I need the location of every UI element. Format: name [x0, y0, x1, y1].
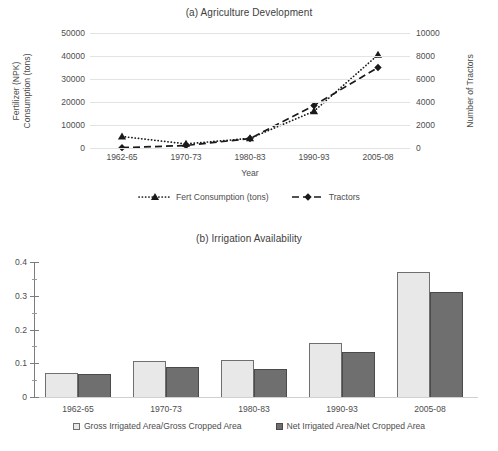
chart-a-legend-item: Fert Consumption (tons) [138, 192, 269, 202]
legend-line-sample [138, 192, 172, 202]
chart-a-x-tick: 1970-73 [170, 152, 201, 162]
chart-b-bar [133, 361, 166, 397]
chart-b-title: (b) Irrigation Availability [0, 233, 498, 244]
chart-b-y-tick-label: 0 [22, 392, 27, 402]
chart-a-x-axis-label: Year [90, 168, 410, 178]
chart-b-bar [254, 369, 287, 397]
chart-b-y-tick-mark [30, 397, 39, 398]
chart-b-y-tick-label: 0.3 [15, 291, 27, 301]
chart-b-bar [342, 352, 375, 397]
chart-b-bar-group [122, 262, 210, 397]
chart-a-gridline [90, 148, 410, 149]
chart-a-x-tick: 1962-65 [106, 152, 137, 162]
legend-swatch-net-icon [276, 423, 283, 430]
chart-a-y-tick-right: 2000 [416, 120, 435, 130]
chart-b-x-tick: 2005-08 [414, 404, 446, 414]
chart-b-x-tick: 1980-83 [238, 404, 270, 414]
chart-b-bar-group [210, 262, 298, 397]
dotted-line-triangle-icon [138, 192, 172, 202]
chart-a-y-tick-left: 40000 [61, 51, 85, 61]
chart-b-bar [309, 343, 342, 397]
chart-a-legend-label: Tractors [329, 192, 360, 202]
chart-b-y-tick-label: 0.2 [15, 325, 27, 335]
y-axis-label-left-line1: Fertilizer (NPK) [10, 61, 20, 120]
chart-a-x-tick: 1990-93 [298, 152, 329, 162]
chart-b-bar [430, 292, 463, 397]
chart-a-y-tick-left: 20000 [61, 97, 85, 107]
chart-b-bar-group [34, 262, 122, 397]
chart-agriculture-development: (a) Agriculture Development Fertilizer (… [0, 0, 498, 225]
chart-a-legend-item: Tractors [291, 192, 360, 202]
chart-b-bar-group [298, 262, 386, 397]
y-axis-label-left-line2: Consumption (tons) [21, 53, 31, 128]
chart-b-plot-area: 00.10.20.30.41962-651970-731980-831990-9… [34, 262, 474, 397]
chart-b-legend: Gross Irrigated Area/Gross Cropped AreaN… [0, 421, 498, 431]
chart-b-bar [397, 272, 430, 397]
chart-a-legend-label: Fert Consumption (tons) [176, 192, 269, 202]
chart-b-legend-item: Net Irrigated Area/Net Cropped Area [276, 421, 426, 431]
chart-a-y-tick-right: 4000 [416, 97, 435, 107]
chart-a-y-axis-label-right: Number of Tractors [462, 33, 478, 148]
chart-a-legend: Fert Consumption (tons)Tractors [0, 192, 498, 202]
chart-b-x-tick: 1990-93 [326, 404, 358, 414]
chart-a-y-tick-right: 6000 [416, 74, 435, 84]
chart-a-y-tick-right: 10000 [416, 28, 440, 38]
chart-a-x-tick: 2005-08 [362, 152, 393, 162]
chart-a-x-tick: 1980-83 [234, 152, 265, 162]
legend-marker [304, 193, 311, 200]
chart-a-y-tick-left: 50000 [61, 28, 85, 38]
chart-irrigation-availability: (b) Irrigation Availability 00.10.20.30.… [0, 225, 498, 451]
chart-b-x-tick: 1970-73 [150, 404, 182, 414]
chart-b-bar [45, 373, 78, 397]
chart-a-y-tick-right: 8000 [416, 51, 435, 61]
chart-a-y-axis-label-left: Fertilizer (NPK) Consumption (tons) [8, 33, 34, 148]
legend-swatch-gross-icon [73, 423, 80, 430]
chart-a-gridline [90, 102, 410, 103]
chart-b-legend-label: Net Irrigated Area/Net Cropped Area [287, 421, 426, 431]
dashed-line-diamond-icon [291, 192, 325, 202]
chart-a-marker-diamond [374, 64, 381, 71]
chart-b-legend-label: Gross Irrigated Area/Gross Cropped Area [84, 421, 242, 431]
chart-b-bar [166, 367, 199, 397]
chart-b-x-tick: 1962-65 [62, 404, 94, 414]
chart-a-y-tick-right: 0 [416, 143, 421, 153]
chart-a-marker-triangle [118, 132, 126, 139]
chart-b-bar [78, 374, 111, 397]
chart-a-title: (a) Agriculture Development [0, 7, 498, 18]
chart-a-gridline [90, 125, 410, 126]
chart-a-series-line-fert [122, 55, 378, 144]
chart-b-y-tick-label: 0.1 [15, 358, 27, 368]
chart-b-legend-item: Gross Irrigated Area/Gross Cropped Area [73, 421, 242, 431]
chart-a-series-svg [90, 33, 410, 148]
chart-a-gridline [90, 79, 410, 80]
figure-panel-container: (a) Agriculture Development Fertilizer (… [0, 0, 498, 451]
chart-a-y-tick-left: 30000 [61, 74, 85, 84]
chart-a-gridline [90, 33, 410, 34]
chart-a-plot-area: 0010000200020000400030000600040000800050… [90, 33, 410, 148]
chart-b-x-axis-line [30, 397, 478, 398]
chart-b-bar [221, 360, 254, 397]
chart-a-gridline [90, 56, 410, 57]
chart-a-y-tick-left: 0 [80, 143, 85, 153]
legend-line-sample [291, 192, 325, 202]
chart-b-bar-group [386, 262, 474, 397]
chart-a-y-tick-left: 10000 [61, 120, 85, 130]
chart-b-y-tick-label: 0.4 [15, 257, 27, 267]
